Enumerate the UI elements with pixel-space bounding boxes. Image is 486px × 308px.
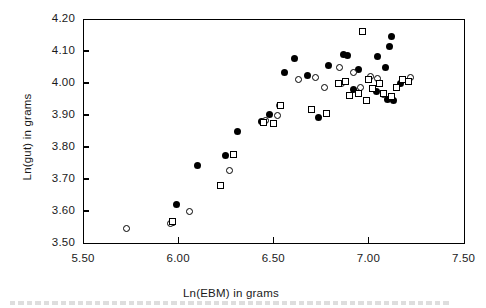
- x-tick-label: 6.00: [153, 252, 203, 264]
- data-point-filled-circle: [222, 152, 229, 159]
- data-point-open-square: [342, 78, 349, 85]
- data-point-open-square: [346, 92, 353, 99]
- data-point-open-square: [405, 78, 412, 85]
- y-tick-mark: [83, 50, 89, 51]
- x-tick-mark: [178, 237, 179, 243]
- data-point-open-square: [365, 76, 372, 83]
- x-tick-label: 7.00: [343, 252, 393, 264]
- plot-frame-bottom: [83, 243, 465, 244]
- y-tick-mark: [83, 146, 89, 147]
- x-tick-mark: [273, 237, 274, 243]
- y-tick-label: 3.90: [31, 108, 75, 120]
- data-point-open-square: [260, 119, 267, 126]
- data-point-open-square: [323, 110, 330, 117]
- data-point-open-square: [277, 102, 284, 109]
- y-tick-label: 4.10: [31, 44, 75, 56]
- y-tick-mark: [83, 210, 89, 211]
- data-point-open-square: [369, 85, 376, 92]
- data-point-filled-circle: [194, 162, 201, 169]
- data-point-open-circle: [123, 225, 130, 232]
- data-point-open-circle: [274, 112, 281, 119]
- data-point-open-square: [169, 218, 176, 225]
- data-point-filled-circle: [315, 114, 322, 121]
- x-tick-label: 7.50: [439, 252, 486, 264]
- y-tick-label: 4.20: [31, 12, 75, 24]
- data-point-filled-circle: [386, 43, 393, 50]
- plot-frame-top: [83, 19, 465, 20]
- data-point-open-circle: [295, 76, 302, 83]
- data-point-open-square: [270, 120, 277, 127]
- data-point-filled-circle: [382, 64, 389, 71]
- data-point-open-circle: [321, 84, 328, 91]
- data-point-open-square: [230, 151, 237, 158]
- data-point-open-square: [355, 90, 362, 97]
- y-tick-label: 3.70: [31, 172, 75, 184]
- data-point-open-circle: [336, 64, 343, 71]
- y-tick-label: 3.80: [31, 140, 75, 152]
- data-point-filled-circle: [388, 33, 395, 40]
- data-point-open-square: [335, 80, 342, 87]
- x-tick-label: 6.50: [248, 252, 298, 264]
- data-point-open-circle: [186, 208, 193, 215]
- data-point-filled-circle: [291, 55, 298, 62]
- caption-text-strip: [10, 301, 450, 305]
- data-point-filled-circle: [344, 52, 351, 59]
- data-point-open-square: [388, 93, 395, 100]
- data-point-filled-circle: [304, 72, 311, 79]
- data-point-open-circle: [226, 167, 233, 174]
- y-tick-mark: [83, 82, 89, 83]
- data-point-open-square: [217, 182, 224, 189]
- y-tick-label: 3.60: [31, 204, 75, 216]
- y-tick-label: 4.00: [31, 76, 75, 88]
- data-point-filled-circle: [374, 53, 381, 60]
- data-point-filled-circle: [325, 62, 332, 69]
- data-point-open-square: [393, 84, 400, 91]
- data-point-open-square: [359, 28, 366, 35]
- y-tick-mark: [83, 114, 89, 115]
- data-point-filled-circle: [234, 128, 241, 135]
- y-axis-label: Ln(gut) in grams: [21, 57, 33, 217]
- data-point-open-circle: [350, 69, 357, 76]
- plot-frame-right: [464, 19, 465, 244]
- data-point-open-square: [380, 90, 387, 97]
- data-point-open-square: [363, 97, 370, 104]
- data-point-open-square: [376, 80, 383, 87]
- data-point-filled-circle: [173, 201, 180, 208]
- scatter-plot-figure: 3.503.603.703.803.904.004.104.20 5.506.0…: [0, 0, 486, 308]
- x-tick-mark: [368, 237, 369, 243]
- x-axis-label: Ln(EBM) in grams: [183, 287, 279, 299]
- data-point-filled-circle: [281, 69, 288, 76]
- data-point-open-circle: [312, 74, 319, 81]
- x-tick-label: 5.50: [58, 252, 108, 264]
- y-tick-label: 3.50: [31, 236, 75, 248]
- data-point-open-square: [308, 106, 315, 113]
- y-tick-mark: [83, 178, 89, 179]
